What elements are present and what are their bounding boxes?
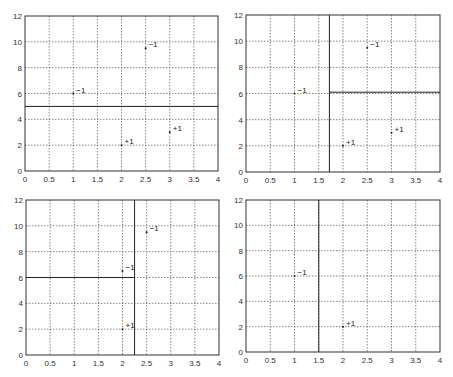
data-point: [169, 131, 171, 133]
subplot-3: 00.511.522.533.54024681012−1−1+1: [14, 196, 222, 368]
point-label: +1: [346, 138, 356, 147]
x-tick-label: 0: [23, 175, 28, 184]
y-tick-label: 6: [239, 90, 244, 99]
x-tick-label: 2.5: [141, 359, 153, 368]
data-point: [121, 144, 123, 146]
data-point: [294, 275, 296, 277]
y-tick-label: 4: [19, 299, 24, 308]
x-tick-label: 1: [292, 356, 297, 365]
point-label: +1: [395, 125, 405, 134]
data-point: [146, 231, 148, 233]
y-tick-label: 0: [18, 167, 23, 176]
point-label: −1: [298, 268, 308, 277]
point-label: −1: [370, 40, 380, 49]
x-tick-label: 2: [120, 359, 125, 368]
data-point: [122, 270, 124, 272]
y-tick-label: 0: [239, 168, 244, 177]
y-tick-label: 4: [18, 115, 23, 124]
subplot-1: 00.511.522.533.54024681012−1−1+1+1: [13, 12, 221, 184]
data-point: [366, 47, 368, 49]
x-tick-label: 0: [244, 356, 249, 365]
y-tick-label: 0: [239, 348, 244, 357]
x-tick-label: 1: [292, 176, 297, 185]
grid-lines: [25, 16, 218, 171]
point-label: −1: [76, 86, 86, 95]
x-tick-label: 4: [438, 176, 443, 185]
x-tick-label: 3.5: [188, 175, 200, 184]
x-tick-label: 1.5: [313, 176, 325, 185]
x-tick-label: 3: [389, 176, 394, 185]
x-tick-label: 0: [24, 359, 29, 368]
chart-figure: 00.511.522.533.54024681012−1−1+1+100.511…: [0, 0, 453, 377]
y-tick-label: 12: [234, 11, 243, 20]
x-tick-label: 2: [341, 176, 346, 185]
y-tick-label: 12: [13, 12, 22, 21]
y-tick-label: 8: [239, 247, 244, 256]
y-tick-label: 8: [239, 63, 244, 72]
x-tick-label: 2.5: [362, 176, 374, 185]
x-tick-label: 3.5: [410, 356, 422, 365]
subplot-4: 00.511.522.533.54024681012−1+1: [234, 196, 443, 365]
point-label: +1: [346, 319, 356, 328]
x-tick-label: 0: [244, 176, 249, 185]
x-tick-label: 0.5: [44, 175, 56, 184]
y-tick-label: 10: [14, 222, 23, 231]
y-tick-label: 6: [239, 272, 244, 281]
point-label: −1: [298, 86, 308, 95]
x-tick-label: 4: [438, 356, 443, 365]
data-point: [72, 93, 74, 95]
x-tick-label: 1.5: [92, 175, 104, 184]
y-tick-label: 12: [14, 196, 23, 205]
y-tick-label: 4: [239, 116, 244, 125]
y-tick-label: 10: [234, 37, 243, 46]
x-tick-label: 2: [341, 356, 346, 365]
point-label: −1: [149, 40, 159, 49]
y-tick-label: 10: [234, 221, 243, 230]
point-label: +1: [125, 137, 135, 146]
point-label: +1: [173, 124, 183, 133]
y-tick-label: 6: [19, 274, 24, 283]
x-tick-label: 2: [119, 175, 124, 184]
y-tick-label: 6: [18, 90, 23, 99]
x-tick-label: 1: [72, 359, 77, 368]
x-tick-label: 2.5: [362, 356, 374, 365]
data-point: [342, 145, 344, 147]
x-tick-label: 1.5: [313, 356, 325, 365]
point-label: −1: [126, 263, 136, 272]
subplot-2: 00.511.522.533.54024681012−1−1+1+1: [234, 11, 443, 185]
x-tick-label: 0.5: [45, 359, 57, 368]
point-label: −1: [150, 224, 160, 233]
y-tick-label: 8: [18, 64, 23, 73]
y-tick-label: 2: [19, 325, 24, 334]
grid-lines: [246, 15, 440, 172]
x-tick-label: 1.5: [93, 359, 105, 368]
data-point: [294, 93, 296, 95]
y-tick-label: 4: [239, 297, 244, 306]
y-tick-label: 10: [13, 38, 22, 47]
data-point: [342, 326, 344, 328]
x-tick-label: 0.5: [265, 176, 277, 185]
x-tick-label: 3: [169, 359, 174, 368]
x-tick-label: 4: [216, 175, 221, 184]
x-tick-label: 1: [71, 175, 76, 184]
y-tick-label: 2: [18, 141, 23, 150]
data-point: [391, 132, 393, 134]
y-tick-label: 8: [19, 248, 24, 257]
data-point: [145, 47, 147, 49]
point-label: +1: [126, 321, 136, 330]
x-tick-label: 3.5: [189, 359, 201, 368]
y-tick-label: 2: [239, 142, 244, 151]
grid-lines: [246, 200, 440, 352]
x-tick-label: 3: [389, 356, 394, 365]
x-tick-label: 0.5: [265, 356, 277, 365]
x-tick-label: 2.5: [140, 175, 152, 184]
data-point: [122, 328, 124, 330]
y-tick-label: 2: [239, 323, 244, 332]
x-tick-label: 3: [168, 175, 173, 184]
x-tick-label: 3.5: [410, 176, 422, 185]
y-tick-label: 12: [234, 196, 243, 205]
x-tick-label: 4: [217, 359, 222, 368]
y-tick-label: 0: [19, 351, 24, 360]
